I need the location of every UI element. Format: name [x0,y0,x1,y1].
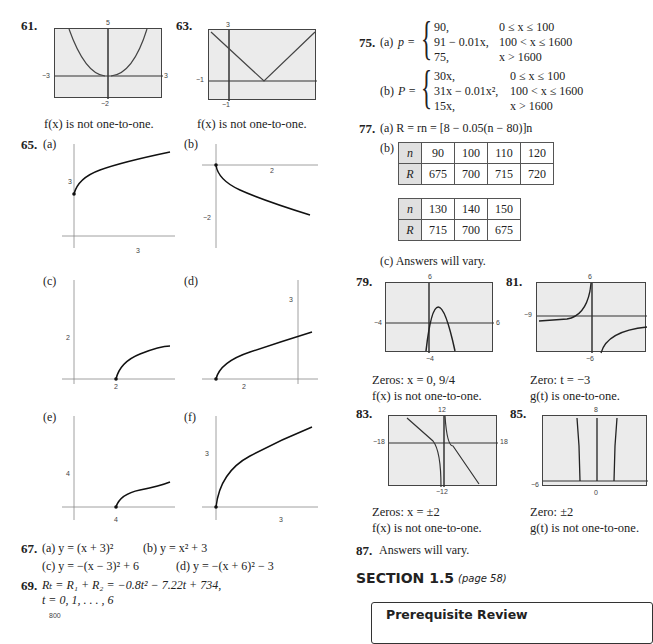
xmin-label: −18 [373,438,385,445]
xmin-label: −1 [196,76,204,83]
piece-expr: 30x, [434,69,455,84]
piece-expr: 31x − 0.01x², [434,84,498,99]
part-c-label: (c) [43,274,56,289]
xtick-label: 2 [270,167,274,174]
problem-81-zero: Zero: t = −3 [530,373,590,388]
part-a-label: (a) [380,35,393,50]
problem-79-caption: f(x) is not one-to-one. [372,389,482,404]
piece-cond: 100 < x ≤ 1600 [499,35,572,50]
table-cell: 140 [455,199,488,220]
calculator-graph-83 [388,415,497,486]
xmin-label: −4 [374,319,382,326]
xtick-label: 3 [279,516,283,523]
ymin-label: −2 [101,100,109,107]
xtick-label: 3 [136,247,140,254]
table-row: R 715 700 675 [399,220,521,241]
ytick-label: 2 [66,334,70,341]
table-cell: 110 [488,143,521,164]
ymax-label: 6 [588,273,592,280]
ymin-label: −6 [586,355,594,362]
table-row: R 675 700 715 720 [399,164,554,185]
table-cell: 700 [455,164,488,185]
ymin-label: −12 [436,488,448,495]
problem-65-number: 65. [21,137,37,153]
xmin-label: −6 [531,481,539,488]
answer-87: Answers will vary. [379,543,469,558]
brace: { [421,65,432,111]
problem-87-number: 87. [356,543,372,559]
ytick-label: −2 [203,214,211,221]
prerequisite-review-title: Prerequisite Review [386,607,528,622]
graph-65a [60,140,180,250]
problem-69-number: 69. [21,578,37,594]
ymin-label: −1 [222,101,230,108]
answer-67a: (a) y = (x + 3)² [42,541,113,556]
problem-83-zeros: Zeros: x = ±2 [372,505,440,520]
parabola-plot [386,283,494,353]
table-cell: 675 [488,220,521,241]
xmax-label: 18 [500,438,508,445]
ymax-label: 12 [438,406,446,413]
piece-cond: x > 1600 [499,50,542,65]
piece-cond: 0 ≤ x ≤ 100 [510,69,565,84]
part-a-label: (a) [43,137,56,152]
part-b-label: (b) [184,137,198,152]
ymax-label: 3 [226,21,230,28]
problem-61-number: 61. [21,18,37,34]
calculator-graph-63 [208,29,316,100]
part-d-label: (d) [184,274,198,289]
piece-expr: 90, [434,20,449,35]
row-header: R [399,164,422,185]
table-cell: 90 [422,143,455,164]
graph-65e [60,412,180,522]
table-cell: 715 [422,220,455,241]
part-b-label: (b) [380,141,394,156]
revenue-table-2: n 130 140 150 R 715 700 675 [398,198,521,241]
ytick-label: 3 [289,296,293,303]
piece-expr: 91 − 0.01x, [434,35,489,50]
ymax-label: 5 [106,19,110,26]
table-row: n 90 100 110 120 [399,143,554,164]
section-title: SECTION 1.5 [356,570,454,586]
problem-79-number: 79. [356,274,372,290]
piecewise-lhs: P = [398,84,416,99]
table-cell: 120 [521,143,554,164]
xtick-label: 4 [114,516,118,523]
table-cell: 150 [488,199,521,220]
brace: { [421,16,432,62]
piece-expr: 75, [434,50,449,65]
problem-63-number: 63. [176,18,192,34]
absolute-value-plot [209,30,317,101]
section-page: (page 58) [458,573,507,584]
vertical-lines-plot [543,416,648,487]
calculator-graph-61 [54,28,162,98]
problem-79-zeros: Zeros: x = 0, 9/4 [372,373,455,388]
graph-65f [200,412,320,522]
row-header: n [399,199,422,220]
answer-67d: (d) y = −(x + 6)² − 3 [176,559,274,574]
rational-plot [537,283,647,353]
ytick-label: 3 [68,178,72,185]
table-row: n 130 140 150 [399,199,521,220]
graph-65d [200,276,320,386]
table-cell: 720 [521,164,554,185]
problem-77-number: 77. [359,121,375,137]
problem-85-number: 85. [510,406,526,422]
answer-77a: (a) R = rn = [8 − 0.05(n − 80)]n [380,121,532,136]
part-f-label: (f) [184,410,196,425]
graph-65b [200,140,320,250]
xmin-label: −3 [42,72,50,79]
problem-85-caption: g(t) is not one-to-one. [530,521,639,536]
row-header: R [399,220,422,241]
rational-plot [389,416,498,487]
problem-81-number: 81. [506,274,522,290]
part-e-label: (e) [43,410,56,425]
piece-cond: x > 1600 [510,99,553,114]
ymin-label: 0 [594,489,598,496]
problem-83-number: 83. [356,406,372,422]
table-cell: 100 [455,143,488,164]
table-cell: 700 [455,220,488,241]
parabola-plot [55,29,163,99]
problem-61-caption: f(x) is not one-to-one. [44,117,154,132]
problem-85-zero: Zero: ±2 [530,505,573,520]
